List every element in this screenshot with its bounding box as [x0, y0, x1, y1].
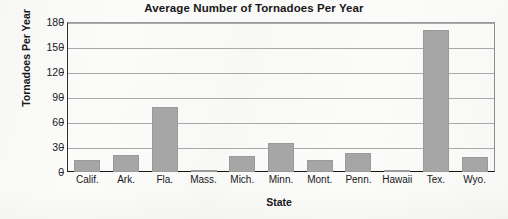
- bar: [268, 143, 294, 172]
- x-axis-tick-label: Tex.: [427, 174, 445, 185]
- bar: [307, 160, 333, 172]
- chart-title: Average Number of Tornadoes Per Year: [0, 2, 508, 14]
- y-axis-tick-mark: [60, 47, 64, 48]
- bar-slot: [339, 22, 378, 172]
- bar-slot: [378, 22, 417, 172]
- bar: [113, 155, 139, 173]
- x-axis-tick-label: Fla.: [156, 174, 173, 185]
- y-axis-tick-label: 180: [2, 16, 64, 28]
- y-axis-tick-mark: [60, 72, 64, 73]
- bar: [152, 107, 178, 172]
- x-axis-tick-label: Mass.: [190, 174, 217, 185]
- x-axis-tick-label: Minn.: [269, 174, 293, 185]
- bar-series: [68, 22, 494, 172]
- x-axis-tick-label: Hawaii: [382, 174, 412, 185]
- bar: [423, 30, 449, 172]
- bar-slot: [145, 22, 184, 172]
- bar: [345, 153, 371, 172]
- x-axis-tick-label: Mich.: [230, 174, 254, 185]
- bar-slot: [68, 22, 107, 172]
- x-axis-tick-labels: Calif.Ark.Fla.Mass.Mich.Minn.Mont.Penn.H…: [68, 174, 494, 192]
- bar-slot: [262, 22, 301, 172]
- y-axis-tick-label: 120: [2, 66, 64, 78]
- bar-slot: [300, 22, 339, 172]
- bar: [191, 170, 217, 173]
- y-axis-tick-labels: 0306090120150180: [0, 22, 64, 172]
- chart-figure: Average Number of Tornadoes Per Year Tor…: [0, 0, 508, 219]
- x-axis-tick-label: Calif.: [76, 174, 99, 185]
- x-axis-tick-label: Mont.: [307, 174, 332, 185]
- bar-slot: [455, 22, 494, 172]
- y-axis-tick-mark: [60, 22, 64, 23]
- y-axis-tick-label: 0: [2, 166, 64, 178]
- bar-slot: [107, 22, 146, 172]
- x-axis-label: State: [64, 196, 494, 208]
- bar-slot: [417, 22, 456, 172]
- y-axis-tick-label: 150: [2, 41, 64, 53]
- bar-slot: [184, 22, 223, 172]
- bar: [384, 170, 410, 172]
- x-axis-tick-label: Penn.: [345, 174, 371, 185]
- y-axis-tick-label: 60: [2, 116, 64, 128]
- bar: [462, 157, 488, 172]
- y-axis-tick-mark: [60, 172, 64, 173]
- bar-slot: [223, 22, 262, 172]
- x-axis-tick-label: Wyo.: [463, 174, 486, 185]
- y-axis-tick-mark: [60, 97, 64, 98]
- y-axis-tick-label: 90: [2, 91, 64, 103]
- x-axis-tick-label: Ark.: [117, 174, 135, 185]
- bar: [74, 160, 100, 172]
- y-axis-tick-mark: [60, 122, 64, 123]
- bar: [229, 156, 255, 172]
- y-axis-tick-mark: [60, 147, 64, 148]
- y-axis-tick-label: 30: [2, 141, 64, 153]
